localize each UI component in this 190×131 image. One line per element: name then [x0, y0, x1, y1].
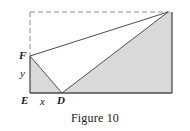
vertex-label-f: F — [19, 50, 26, 61]
figure-caption: Figure 10 — [0, 111, 190, 126]
segment-label-y: y — [20, 68, 25, 79]
vertex-label-d: D — [57, 95, 65, 106]
figure-container: F E D y x Figure 10 — [0, 0, 190, 131]
vertex-label-e: E — [21, 95, 28, 106]
segment-label-x: x — [40, 96, 45, 107]
